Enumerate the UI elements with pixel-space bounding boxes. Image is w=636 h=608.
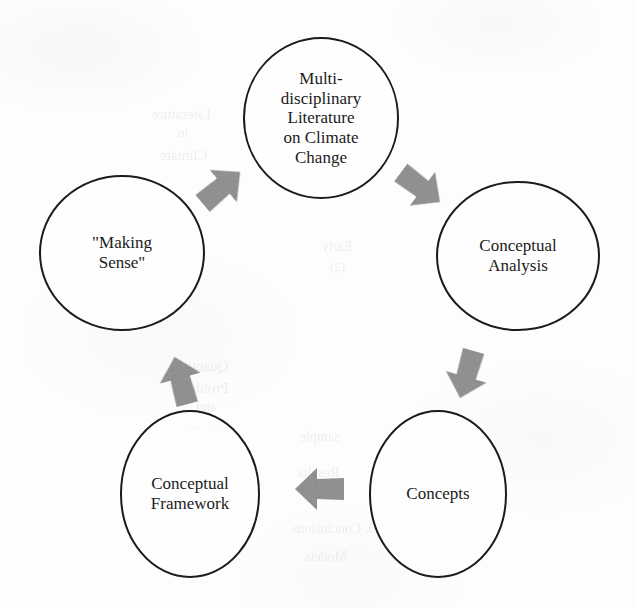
node-circle-conceptual-framework (121, 411, 259, 577)
arrow-making-sense-to-literature (189, 156, 254, 220)
arrow-literature-to-analysis (388, 156, 452, 219)
arrow-analysis-to-concepts (440, 345, 494, 404)
arrow-framework-to-making-sense (154, 351, 207, 409)
node-circle-making-sense (40, 176, 204, 330)
node-circle-concepts (370, 411, 506, 577)
node-circle-conceptual-analysis (437, 182, 599, 330)
diagram-canvas (0, 0, 636, 608)
node-circle-literature (244, 38, 398, 198)
arrow-concepts-to-framework (295, 468, 344, 510)
cyclical-process-diagram: LiteratureinClimateEarly(2)QuantityProbl… (0, 0, 636, 608)
